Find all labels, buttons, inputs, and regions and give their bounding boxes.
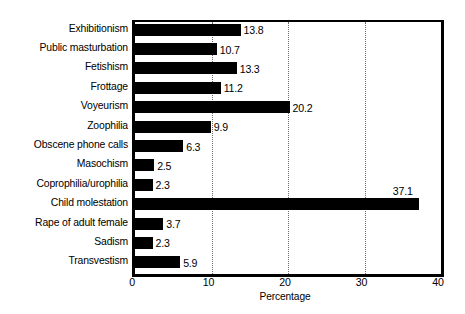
bar-value-label: 13.3 <box>240 63 260 75</box>
bar-value-label: 37.1 <box>393 185 413 197</box>
bar-value-label: 2.3 <box>156 179 170 191</box>
bar-value-label: 3.7 <box>166 218 180 230</box>
bar <box>135 43 217 55</box>
x-tick-label: 20 <box>279 276 290 289</box>
bar <box>135 218 163 230</box>
bar <box>135 179 153 191</box>
category-label: Fetishism <box>0 61 128 72</box>
bar-value-label: 11.2 <box>224 82 243 94</box>
category-label: Coprophilia/urophilia <box>0 178 128 189</box>
gridline-30 <box>365 22 366 274</box>
bar <box>135 62 237 74</box>
bar <box>135 101 290 113</box>
bar-value-label: 9.9 <box>214 121 228 133</box>
x-tick-label: 0 <box>129 276 135 289</box>
category-label: Child molestation <box>0 197 128 208</box>
bar <box>135 198 419 210</box>
category-label: Frottage <box>0 81 128 92</box>
bar-value-label: 20.2 <box>293 102 313 114</box>
bar <box>135 82 221 94</box>
x-tick-label: 40 <box>432 276 443 289</box>
category-label: Transvestism <box>0 255 128 266</box>
category-label: Public masturbation <box>0 42 128 53</box>
plot-area: 13.810.713.311.220.29.96.32.52.337.13.72… <box>132 20 444 277</box>
x-tick-label: 30 <box>356 276 367 289</box>
category-label: Exhibitionism <box>0 23 128 34</box>
gridline-10 <box>212 22 213 274</box>
bar <box>135 24 241 36</box>
category-axis: ExhibitionismPublic masturbationFetishis… <box>0 20 128 272</box>
category-label: Sadism <box>0 236 128 247</box>
bar-value-label: 2.3 <box>156 237 170 249</box>
category-label: Voyeurism <box>0 100 128 111</box>
category-label: Obscene phone calls <box>0 139 128 150</box>
bar <box>135 121 211 133</box>
x-axis-title: Percentage <box>132 291 438 302</box>
bar <box>135 159 154 171</box>
plot-inner: 13.810.713.311.220.29.96.32.52.337.13.72… <box>135 22 441 274</box>
x-axis: 010203040 <box>132 276 438 292</box>
bar <box>135 237 153 249</box>
bar-value-label: 6.3 <box>186 141 200 153</box>
bar <box>135 140 183 152</box>
bar <box>135 256 180 268</box>
category-label: Masochism <box>0 158 128 169</box>
gridline-20 <box>288 22 289 274</box>
x-tick-label: 10 <box>203 276 214 289</box>
bar-value-label: 5.9 <box>183 257 197 269</box>
category-label: Zoophilia <box>0 120 128 131</box>
category-label: Rape of adult female <box>0 217 128 228</box>
bar-value-label: 10.7 <box>220 44 240 56</box>
bar-value-label: 2.5 <box>157 160 171 172</box>
bar-value-label: 13.8 <box>244 24 264 36</box>
bar-chart: ExhibitionismPublic masturbationFetishis… <box>0 0 465 314</box>
